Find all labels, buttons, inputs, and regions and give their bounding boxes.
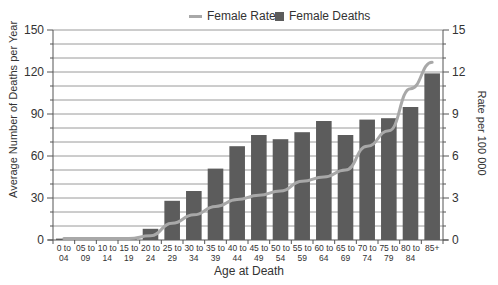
x-tick-label: 25 to [163,243,182,253]
x-tick-label: 75 to [379,243,398,253]
bar [316,121,332,240]
x-tick-label: 14 [102,253,112,263]
bar [338,135,354,240]
x-tick-label: 04 [59,253,69,263]
x-tick-label: 84 [406,253,416,263]
x-tick-label: 49 [254,253,264,263]
y-axis-right-title: Rate per 100 000 [476,83,488,183]
bar [294,132,310,240]
y-tick-label-left: 0 [37,233,44,247]
y-tick-label-left: 90 [31,107,45,121]
bar [359,120,375,240]
y-tick-label-left: 120 [24,65,44,79]
x-tick-label: 10 to [98,243,117,253]
bar [424,73,440,240]
x-axis-title: Age at Death [0,264,498,278]
x-tick-label: 19 [124,253,134,263]
bar [229,146,245,240]
bar [403,107,419,240]
x-tick-label: 24 [146,253,156,263]
x-tick-label: 34 [189,253,199,263]
x-tick-label: 55 to [293,243,312,253]
y-tick-label-right: 6 [452,149,459,163]
x-tick-label: 15 to [119,243,138,253]
x-tick-label: 54 [276,253,286,263]
x-tick-label: 79 [384,253,394,263]
y-tick-label-left: 60 [31,149,45,163]
y-axis-left-title: Average Number of Deaths per Year [7,68,19,198]
x-tick-label: 69 [341,253,351,263]
x-tick-label: 45 to [249,243,268,253]
x-tick-label: 80 to [401,243,420,253]
y-tick-label-left: 30 [31,191,45,205]
x-tick-label: 50 to [271,243,290,253]
x-tick-label: 59 [297,253,307,263]
x-tick-label: 39 [211,253,221,263]
x-tick-label: 29 [167,253,177,263]
x-tick-label: 05 to [76,243,95,253]
x-tick-label: 70 to [358,243,377,253]
x-tick-label: 64 [319,253,329,263]
y-tick-label-right: 3 [452,191,459,205]
y-tick-label-right: 0 [452,233,459,247]
bar [251,135,267,240]
x-tick-label: 30 to [184,243,203,253]
x-tick-label: 09 [81,253,91,263]
y-tick-label-left: 150 [24,23,44,37]
x-tick-label: 60 to [314,243,333,253]
bar [381,118,397,240]
x-tick-label: 0 to [57,243,71,253]
x-tick-label: 85+ [425,243,439,253]
x-tick-label: 65 to [336,243,355,253]
bar [164,201,180,240]
y-tick-label-right: 9 [452,107,459,121]
y-tick-label-right: 15 [452,23,466,37]
x-tick-label: 40 to [228,243,247,253]
combo-chart: 0306090120150036912150 to0405 to0910 to1… [0,0,498,285]
x-tick-label: 20 to [141,243,160,253]
y-tick-label-right: 12 [452,65,466,79]
x-tick-label: 35 to [206,243,225,253]
x-tick-label: 74 [362,253,372,263]
x-tick-label: 44 [232,253,242,263]
